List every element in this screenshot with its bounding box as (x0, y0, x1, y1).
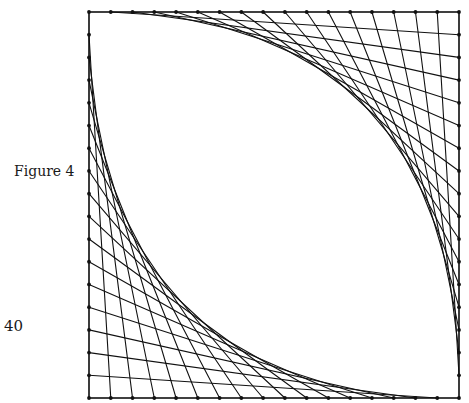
edge-point (87, 192, 91, 196)
stitch-line (89, 375, 437, 398)
edge-point (87, 396, 91, 400)
edge-point (87, 124, 91, 128)
edge-point (414, 396, 418, 400)
edge-point (283, 10, 287, 14)
edge-point (87, 237, 91, 241)
edge-point (457, 169, 461, 173)
edge-point (109, 10, 113, 14)
square-outline (89, 12, 459, 398)
edge-point (87, 373, 91, 377)
edge-point (87, 101, 91, 105)
edge-point (87, 78, 91, 82)
edge-point (87, 146, 91, 150)
stitch-line (111, 12, 459, 35)
stitch-line (307, 12, 459, 239)
edge-point (392, 396, 396, 400)
edge-point (370, 10, 374, 14)
edge-point (131, 10, 135, 14)
edge-point (152, 10, 156, 14)
edge-point (457, 351, 461, 355)
stitch-line (350, 12, 459, 284)
edge-point (370, 396, 374, 400)
edge-point (457, 101, 461, 105)
edge-point (457, 305, 461, 309)
edge-point (414, 10, 418, 14)
edge-point (87, 56, 91, 60)
edge-point (87, 260, 91, 264)
edge-point (457, 237, 461, 241)
edge-point (457, 328, 461, 332)
edge-point (109, 396, 113, 400)
square-frame (89, 12, 459, 398)
edge-point (131, 396, 135, 400)
edge-point (87, 283, 91, 287)
stitch-line (89, 35, 111, 398)
edge-point (348, 396, 352, 400)
edge-point (457, 260, 461, 264)
stitch-line (89, 80, 154, 398)
edge-point (457, 10, 461, 14)
edge-point (283, 396, 287, 400)
edge-point (87, 33, 91, 37)
edge-point (457, 78, 461, 82)
stitch-line (89, 171, 241, 398)
stitch-line (154, 12, 459, 80)
edge-point (457, 283, 461, 287)
edge-point (87, 305, 91, 309)
edge-point (327, 396, 331, 400)
edge-point (435, 396, 439, 400)
stitch-line (89, 330, 394, 398)
edge-point (327, 10, 331, 14)
edge-point (457, 192, 461, 196)
edge-point (457, 373, 461, 377)
curve-stitching-diagram (0, 0, 469, 403)
stitch-line (241, 12, 459, 171)
edge-point (196, 10, 200, 14)
edge-point (435, 10, 439, 14)
edge-point (87, 169, 91, 173)
edge-point (87, 328, 91, 332)
edge-point (457, 33, 461, 37)
edge-point (457, 214, 461, 218)
stitch-line (198, 12, 459, 126)
edge-point (196, 396, 200, 400)
edge-point (87, 10, 91, 14)
edge-point (305, 396, 309, 400)
stitch-lines (89, 12, 459, 398)
edge-point (152, 396, 156, 400)
edge-point (261, 396, 265, 400)
stitch-line (437, 12, 459, 375)
edge-point (305, 10, 309, 14)
stitch-line (89, 284, 350, 398)
edge-point (392, 10, 396, 14)
edge-point (261, 10, 265, 14)
edge-point (174, 10, 178, 14)
stitch-line (394, 12, 459, 330)
edge-point (239, 10, 243, 14)
edge-point (457, 396, 461, 400)
stitch-line (89, 126, 198, 398)
edge-point (457, 146, 461, 150)
edge-point (87, 214, 91, 218)
edge-point (457, 124, 461, 128)
edge-point (218, 396, 222, 400)
edge-point (348, 10, 352, 14)
edge-point (218, 10, 222, 14)
edge-point (239, 396, 243, 400)
edge-point (457, 56, 461, 60)
edge-point (87, 351, 91, 355)
stitch-line (89, 239, 307, 398)
edge-point (174, 396, 178, 400)
